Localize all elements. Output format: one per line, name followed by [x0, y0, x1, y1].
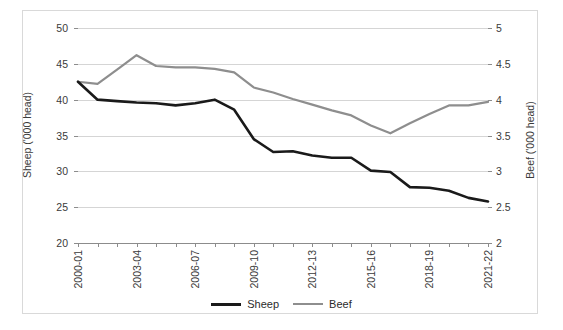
x-axis-tick [254, 243, 255, 247]
y-axis-left-tick-label: 50 [28, 22, 68, 34]
x-axis-tick [195, 243, 196, 247]
x-axis-tick-label: 2018-19 [423, 250, 435, 289]
x-axis-tick [468, 243, 469, 247]
y-axis-left-tick [74, 28, 78, 29]
y-axis-right-tick-label: 5 [496, 22, 536, 34]
x-axis-tick [371, 243, 372, 247]
x-axis-tick [137, 243, 138, 247]
x-axis-tick [78, 243, 79, 247]
series-layer [78, 28, 488, 243]
legend-item-sheep: Sheep [211, 298, 279, 310]
x-axis-tick [117, 243, 118, 247]
y-axis-left-tick [74, 64, 78, 65]
x-axis-tick [312, 243, 313, 247]
y-axis-right-tick [488, 136, 492, 137]
x-axis-tick [156, 243, 157, 247]
x-axis-tick-label: 2012-13 [306, 250, 318, 289]
y-axis-left-tick-label: 40 [28, 94, 68, 106]
x-axis-tick [410, 243, 411, 247]
x-axis-tick-label: 2009-10 [248, 250, 260, 289]
x-axis-tick-label: 2021-22 [482, 250, 494, 289]
x-axis-line [78, 243, 488, 244]
y-axis-right-tick [488, 243, 492, 244]
y-axis-left-tick-label: 20 [28, 237, 68, 249]
x-axis-tick [293, 243, 294, 247]
legend-swatch-beef-icon [293, 303, 323, 305]
chart-legend: Sheep Beef [0, 298, 563, 310]
y-axis-right-tick-label: 2 [496, 237, 536, 249]
x-axis-tick [351, 243, 352, 247]
line-series-sheep [78, 82, 488, 202]
legend-label-beef: Beef [329, 298, 352, 310]
chart-figure: 20253035404550 22.533.544.55 2000-012003… [0, 0, 563, 330]
x-axis-tick [332, 243, 333, 247]
y-axis-left-tick-label: 45 [28, 58, 68, 70]
y-axis-left-tick-label: 35 [28, 130, 68, 142]
y-axis-left-tick [74, 171, 78, 172]
y-axis-left-tick [74, 136, 78, 137]
y-axis-right-tick [488, 207, 492, 208]
x-axis-tick [390, 243, 391, 247]
x-axis-tick [234, 243, 235, 247]
y-axis-left-tick-label: 25 [28, 201, 68, 213]
y-axis-right-tick-label: 4.5 [496, 58, 536, 70]
legend-swatch-sheep-icon [211, 303, 241, 306]
x-axis-tick-label: 2015-16 [365, 250, 377, 289]
y-axis-left-tick [74, 100, 78, 101]
line-series-beef [78, 55, 488, 133]
x-axis-tick [176, 243, 177, 247]
x-axis-tick [429, 243, 430, 247]
x-axis-tick-label: 2006-07 [189, 250, 201, 289]
x-axis-tick [273, 243, 274, 247]
x-axis-tick [215, 243, 216, 247]
plot-area [78, 28, 488, 243]
legend-item-beef: Beef [293, 298, 352, 310]
y-axis-left-tick [74, 207, 78, 208]
y-axis-left-tick [74, 243, 78, 244]
x-axis-tick [449, 243, 450, 247]
y-axis-right-tick [488, 171, 492, 172]
x-axis-tick-label: 2000-01 [72, 250, 84, 289]
y-axis-right-tick [488, 28, 492, 29]
y-axis-right-tick [488, 64, 492, 65]
y-axis-right-tick [488, 100, 492, 101]
x-axis-tick-label: 2003-04 [131, 250, 143, 289]
legend-label-sheep: Sheep [247, 298, 279, 310]
y-axis-left-title: Sheep ('000 head) [21, 92, 33, 178]
y-axis-left-tick-label: 30 [28, 165, 68, 177]
x-axis-tick [98, 243, 99, 247]
y-axis-right-tick-label: 2.5 [496, 201, 536, 213]
y-axis-right-title: Beef ('000 head) [524, 101, 536, 178]
